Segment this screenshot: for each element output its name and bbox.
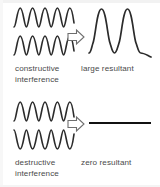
caption-line-1: constructive [15,64,59,75]
caption-line-1: destructive [15,158,59,169]
wave-interference-figure: constructive interference large resultan… [0,0,160,187]
caption-line-1: zero resultant [81,158,131,169]
panel-destructive-interference: destructive interference zero resultant [0,93,160,187]
panel-constructive-interference: constructive interference large resultan… [0,0,160,93]
constructive-resultant-wave [88,7,152,59]
destructive-interference-caption: destructive interference [15,158,59,179]
large-resultant-caption: large resultant [81,64,134,75]
caption-line-2: interference [15,75,59,86]
hollow-right-arrow-icon [66,27,86,47]
caption-line-1: large resultant [81,64,134,75]
caption-line-2: interference [15,169,59,180]
constructive-interference-caption: constructive interference [15,64,59,85]
zero-resultant-caption: zero resultant [81,158,131,169]
zero-resultant-line [88,117,152,129]
hollow-right-arrow-icon [66,114,86,134]
